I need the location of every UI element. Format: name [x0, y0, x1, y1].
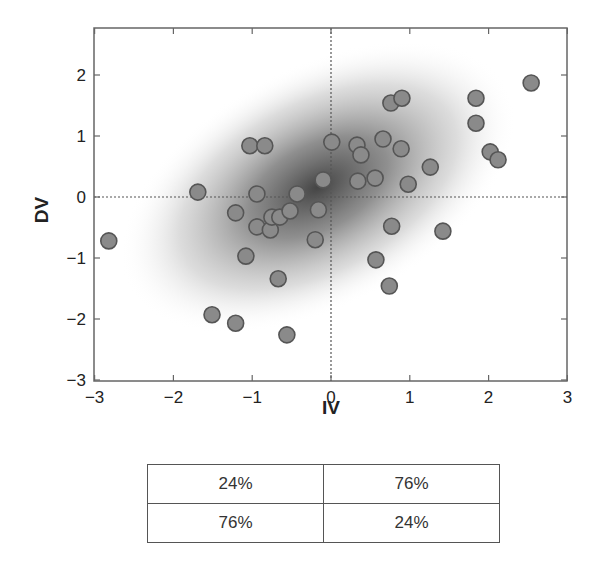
data-point	[381, 278, 397, 294]
data-point	[310, 202, 326, 218]
x-tick-label: −2	[164, 388, 183, 407]
data-point	[400, 176, 416, 192]
data-point	[394, 90, 410, 106]
data-point	[375, 131, 391, 147]
quadrant-percentage-table: 24% 76% 76% 24%	[147, 464, 500, 543]
y-tick-label: 2	[77, 66, 86, 85]
data-point	[282, 203, 298, 219]
y-tick-label: 1	[77, 127, 86, 146]
y-tick-label: −3	[67, 371, 86, 390]
table-cell-top-left: 24%	[148, 465, 324, 504]
data-point	[242, 138, 258, 154]
data-point	[315, 172, 331, 188]
x-tick-label: −3	[85, 388, 104, 407]
data-point	[468, 115, 484, 131]
data-point	[367, 170, 383, 186]
data-point	[368, 252, 384, 268]
x-axis-title: IV	[322, 397, 340, 418]
data-point	[190, 184, 206, 200]
data-point	[204, 307, 220, 323]
y-tick-label: −2	[67, 310, 86, 329]
x-tick-label: −1	[243, 388, 262, 407]
data-point	[249, 186, 265, 202]
data-point	[324, 134, 340, 150]
x-tick-label: 3	[563, 388, 572, 407]
table-row: 24% 76%	[148, 465, 500, 504]
data-point	[307, 232, 323, 248]
data-point	[350, 173, 366, 189]
table-cell-bottom-right: 24%	[324, 504, 500, 543]
data-point	[228, 315, 244, 331]
data-point	[270, 271, 286, 287]
table-row: 76% 24%	[148, 504, 500, 543]
plot-area	[72, 0, 567, 394]
table-cell-bottom-left: 76%	[148, 504, 324, 543]
y-axis-title: DV	[31, 196, 52, 223]
scatter-chart: −3−2−10123 −3−2−1012 IV DV	[0, 0, 602, 420]
x-tick-label: 1	[405, 388, 414, 407]
x-tick-label: 2	[484, 388, 493, 407]
data-point	[468, 90, 484, 106]
y-tick-label: −1	[67, 249, 86, 268]
data-point	[523, 75, 539, 91]
data-point	[257, 138, 273, 154]
y-tick-label: 0	[77, 188, 86, 207]
data-point	[393, 141, 409, 157]
data-point	[101, 233, 117, 249]
data-point	[353, 147, 369, 163]
table-cell-top-right: 76%	[324, 465, 500, 504]
data-point	[384, 218, 400, 234]
data-point	[435, 223, 451, 239]
data-point	[228, 205, 244, 221]
data-point	[422, 159, 438, 175]
data-point	[238, 248, 254, 264]
data-point	[279, 327, 295, 343]
data-point	[490, 152, 506, 168]
data-point	[289, 186, 305, 202]
